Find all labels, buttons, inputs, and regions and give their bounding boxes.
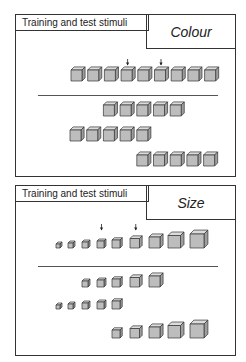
cube-stimulus <box>112 238 122 248</box>
cube-stimulus <box>188 67 202 81</box>
cube-stimulus <box>149 324 163 338</box>
cube-stimulus <box>112 328 122 338</box>
cube-stimulus <box>97 239 106 248</box>
cube-stimulus <box>70 127 84 141</box>
cube-stimulus <box>170 152 184 166</box>
cube-stimulus <box>68 241 75 248</box>
cube-stimulus <box>137 152 151 166</box>
cube-stimulus <box>149 273 163 287</box>
cube-stimulus <box>103 127 117 141</box>
cube-stimulus <box>154 102 168 116</box>
colour-panel: Training and test stimuli Colour <box>15 14 236 177</box>
cube-stimulus <box>121 67 135 81</box>
cube-stimulus <box>187 152 201 166</box>
cube-stimulus <box>155 67 169 81</box>
cube-stimulus <box>97 278 106 287</box>
arrow-marker-icon <box>134 224 137 231</box>
arrow-marker-icon <box>126 59 129 66</box>
cube-stimulus <box>149 234 163 248</box>
cube-stimulus <box>87 127 101 141</box>
cube-stimulus <box>82 301 90 309</box>
cube-stimulus <box>205 67 219 81</box>
cube-stimulus <box>138 67 152 81</box>
cube-stimulus <box>120 127 134 141</box>
cube-stimulus <box>204 152 218 166</box>
cube-stimulus <box>56 242 62 248</box>
cube-stimulus <box>137 127 151 141</box>
size-panel: Training and test stimuli Size <box>15 185 236 356</box>
cube-stimulus <box>168 232 184 248</box>
cube-stimulus <box>82 240 90 248</box>
cube-stimulus <box>88 67 102 81</box>
cube-stimulus <box>112 299 122 309</box>
cube-stimulus <box>103 102 117 116</box>
arrow-marker-icon <box>159 59 162 66</box>
cube-stimulus <box>154 152 168 166</box>
cube-stimulus <box>68 302 75 309</box>
cube-stimulus <box>190 320 208 338</box>
cube-stimulus <box>190 230 208 248</box>
cube-stimulus <box>104 67 118 81</box>
size-stimuli <box>16 186 237 357</box>
arrow-marker-icon <box>100 224 103 231</box>
cube-stimulus <box>82 279 90 287</box>
cube-stimulus <box>97 300 106 309</box>
cube-stimulus <box>170 102 184 116</box>
cube-stimulus <box>130 236 142 248</box>
cube-stimulus <box>137 102 151 116</box>
colour-stimuli <box>16 15 237 178</box>
cube-stimulus <box>130 326 142 338</box>
cube-stimulus <box>168 322 184 338</box>
cube-stimulus <box>130 275 142 287</box>
cube-stimulus <box>56 303 62 309</box>
cube-stimulus <box>112 277 122 287</box>
cube-stimulus <box>120 102 134 116</box>
cube-stimulus <box>171 67 185 81</box>
cube-stimulus <box>71 67 85 81</box>
